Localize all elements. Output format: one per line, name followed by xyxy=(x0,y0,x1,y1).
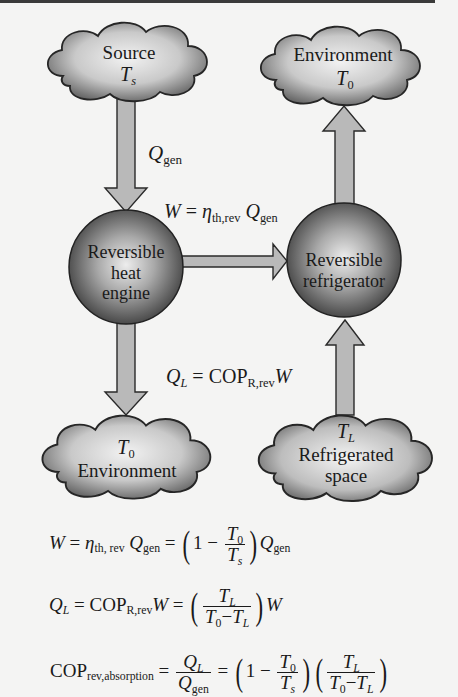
cloud-environment-top xyxy=(261,27,420,106)
refrigerated-space-temp: TL xyxy=(326,421,366,441)
arrow-ql xyxy=(326,320,364,415)
arrow-work xyxy=(182,244,287,279)
heat-engine-label: Reversible heat engine xyxy=(76,242,176,304)
equation-ql: QL = COPR,revW = (TLT0−TL)W xyxy=(49,586,282,627)
qgen-label: Qgen xyxy=(148,143,182,164)
environment-bottom-temp: T0 xyxy=(106,437,146,457)
environment-top-label: Environment xyxy=(278,45,408,64)
refrigerator-label: Reversible refrigerator xyxy=(290,250,398,291)
environment-bottom-label: Environment xyxy=(62,461,192,480)
refrigerated-space-label: Refrigerated space xyxy=(290,444,402,487)
work-label: W = ηth,rev Qgen xyxy=(164,201,278,221)
equation-work: W = ηth, rev Qgen = (1 − T0Ts)Qgen xyxy=(49,524,290,565)
equation-cop-absorption: COPrev,absorption = QLQgen = (1 − T0Ts)(… xyxy=(50,652,390,693)
ql-label: QL = COPR,revW xyxy=(166,366,291,386)
arrow-engine-to-env xyxy=(105,322,147,415)
environment-top-temp: T0 xyxy=(325,68,365,88)
arrow-refrig-to-env xyxy=(323,106,365,205)
source-temp: Ts xyxy=(108,64,148,84)
arrow-qgen xyxy=(105,98,147,212)
source-label: Source xyxy=(88,43,170,62)
